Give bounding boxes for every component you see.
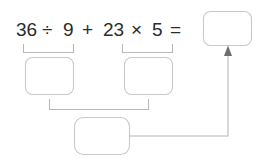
arrow-up-icon [224,46,232,57]
equation-token-equals: = [170,19,181,40]
group-brace-division [24,45,74,53]
equation-token-5: 5 [152,19,163,40]
group-brace-addition [50,100,149,110]
equation-token-9: 9 [63,19,74,40]
order-of-operations-worksheet: 36 ÷ 9 + 23 × 5 = [0,0,260,162]
equation-token-23: 23 [103,19,124,40]
equation-token-36: 36 [16,19,37,40]
answer-box-step-left[interactable] [26,58,74,95]
equation-token-divide: ÷ [42,19,52,40]
worksheet-canvas: 36 ÷ 9 + 23 × 5 = [0,0,260,162]
answer-box-result[interactable] [204,12,252,46]
answer-box-step-sum[interactable] [75,118,130,155]
answer-box-step-right[interactable] [125,58,173,95]
group-brace-multiplication [123,45,173,53]
equation-token-plus: + [82,19,93,40]
equation-token-times: × [131,19,142,40]
equation-row: 36 ÷ 9 + 23 × 5 = [16,19,181,40]
